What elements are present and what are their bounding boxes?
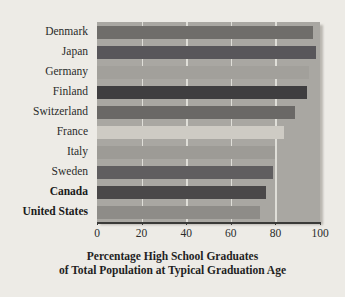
x-tick-label-60: 60 — [225, 227, 237, 239]
x-tick-mark-40 — [186, 222, 187, 225]
x-axis-title-line2: of Total Population at Typical Graduatio… — [0, 263, 345, 277]
category-axis-labels: DenmarkJapanGermanyFinlandSwitzerlandFra… — [6, 22, 92, 222]
bar-canada — [97, 186, 266, 199]
x-tick-mark-60 — [231, 222, 232, 225]
category-label-switzerland: Switzerland — [2, 106, 88, 118]
bar-france — [97, 126, 284, 139]
category-label-germany: Germany — [2, 66, 88, 78]
x-tick-mark-80 — [275, 222, 276, 225]
category-label-japan: Japan — [2, 46, 88, 58]
x-tick-label-40: 40 — [180, 227, 192, 239]
category-label-france: France — [2, 126, 88, 138]
chart-figure: DenmarkJapanGermanyFinlandSwitzerlandFra… — [0, 0, 345, 297]
x-axis-line — [97, 222, 321, 224]
bar-switzerland — [97, 106, 295, 119]
x-tick-mark-100 — [320, 222, 321, 225]
x-tick-label-80: 80 — [270, 227, 282, 239]
x-tick-label-0: 0 — [94, 227, 100, 239]
category-label-finland: Finland — [2, 86, 88, 98]
x-tick-label-20: 20 — [136, 227, 148, 239]
bar-italy — [97, 146, 275, 159]
bar-finland — [97, 86, 307, 99]
category-label-sweden: Sweden — [2, 166, 88, 178]
category-label-italy: Italy — [2, 146, 88, 158]
category-label-denmark: Denmark — [2, 26, 88, 38]
bar-germany — [97, 66, 309, 79]
x-axis-title: Percentage High School Graduates of Tota… — [0, 249, 345, 277]
category-label-united-states: United States — [2, 206, 88, 218]
plot-area — [97, 22, 320, 222]
x-tick-label-100: 100 — [311, 227, 328, 239]
x-axis-title-line1: Percentage High School Graduates — [0, 249, 345, 263]
x-tick-mark-20 — [142, 222, 143, 225]
bar-japan — [97, 46, 316, 59]
bar-denmark — [97, 26, 313, 39]
category-label-canada: Canada — [2, 186, 88, 198]
x-tick-mark-0 — [97, 222, 98, 225]
bar-united-states — [97, 206, 260, 219]
bar-sweden — [97, 166, 273, 179]
